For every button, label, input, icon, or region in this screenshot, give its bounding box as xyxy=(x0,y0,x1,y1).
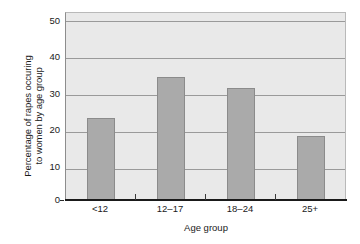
y-tick-label-50: 50 xyxy=(36,16,60,26)
x-tick-mark-3 xyxy=(275,194,276,200)
y-tick-label-30: 30 xyxy=(36,89,60,99)
y-axis-ticks: 50 40 30 20 10 0 xyxy=(34,0,60,244)
bar-25plus xyxy=(297,136,325,200)
x-tick-mark-2 xyxy=(205,194,206,200)
x-tick-label-12-17: 12–17 xyxy=(135,203,205,214)
bar-12-17 xyxy=(157,77,185,200)
plot-area xyxy=(65,12,346,200)
gridline-40 xyxy=(66,58,345,59)
y-axis-title-line-1: Percentage of rapes occuring xyxy=(22,55,34,176)
y-tick-label-10: 10 xyxy=(36,162,60,172)
x-tick-label-25plus: 25+ xyxy=(275,203,345,214)
gridline-50 xyxy=(66,21,345,22)
y-tick-label-0: 0 xyxy=(36,195,60,205)
y-tick-mark-0 xyxy=(60,200,64,201)
y-tick-label-20: 20 xyxy=(36,125,60,135)
bar-18-24 xyxy=(227,88,255,200)
gridline-30 xyxy=(66,95,345,96)
x-axis-line xyxy=(65,199,347,201)
bar-chart-figure: Percentage of rapes occuring to women by… xyxy=(0,0,360,244)
y-tick-label-40: 40 xyxy=(36,52,60,62)
x-tick-mark-1 xyxy=(135,194,136,200)
x-axis-title: Age group xyxy=(65,222,347,233)
x-tick-label-lt12: <12 xyxy=(65,203,135,214)
bar-lt12 xyxy=(87,118,115,200)
x-tick-label-18-24: 18–24 xyxy=(205,203,275,214)
plot-inner xyxy=(66,13,345,200)
